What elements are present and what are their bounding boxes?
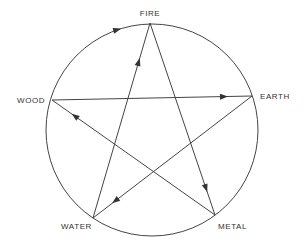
five-elements-diagram: FIRE EARTH METAL WATER WOOD [0, 0, 306, 249]
line-water-to-fire [93, 23, 150, 218]
node-label-wood: WOOD [17, 96, 45, 105]
node-label-water: WATER [61, 222, 92, 231]
arc-arrowhead-wood-to-fire [113, 28, 122, 34]
generating-cycle-circle [46, 24, 258, 236]
arrowheads [72, 28, 228, 203]
arrowhead-water-to-fire [135, 58, 141, 67]
arrowhead-earth-to-water [112, 196, 120, 203]
node-label-earth: EARTH [260, 92, 290, 101]
controlling-lines [52, 23, 252, 218]
node-label-fire: FIRE [140, 9, 161, 18]
arrowhead-fire-to-metal [202, 183, 208, 192]
node-label-metal: METAL [218, 222, 247, 231]
arrowhead-wood-to-earth [220, 94, 228, 100]
arrowhead-metal-to-wood [72, 114, 80, 121]
